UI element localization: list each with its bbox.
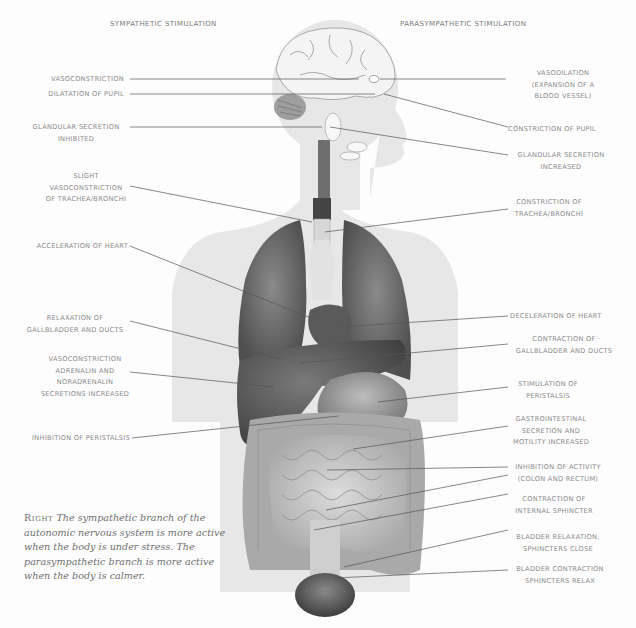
label-bladder-relaxation: Bladder relaxation, sphincters close [508,532,608,555]
label-acceleration-of-heart: Acceleration of heart [18,241,128,253]
label-vasodilation: Vasodilation (expansion of a blood vesse… [508,68,618,103]
diagram-page: Sympathetic Stimulation Parasympathetic … [0,0,636,628]
label-constriction-of-pupil: Constriction of pupil [508,124,628,136]
label-contraction-of-gallbladder: Contraction of gallbladder and ducts [508,334,620,357]
figure-caption: Right The sympathetic branch of the auto… [24,511,234,584]
label-glandular-secretion-inhibited: Glandular secretion inhibited [24,122,128,145]
label-stimulation-of-peristalsis: Stimulation of peristalsis [510,379,586,402]
label-bladder-contraction: Bladder contraction sphincters relax [508,564,612,587]
salivary-gland [325,113,341,141]
caption-lead: Right [24,512,53,523]
label-constriction-of-trachea: Constriction of trachea/bronchi [508,197,590,220]
label-contraction-of-internal-sphincter: Contraction of internal sphincter [508,494,600,517]
label-inhibition-of-activity: Inhibition of activity (colon and rectum… [508,462,608,485]
label-vasoconstriction-adrenalin: Vasoconstriction adrenalin and noradrena… [30,354,140,400]
caption-text: The sympathetic branch of the autonomic … [24,512,225,581]
sympathetic-header: Sympathetic Stimulation [110,20,217,28]
label-gastrointestinal-secretion: Gastrointestinal secretion and motility … [508,414,594,449]
label-relaxation-of-gallbladder: Relaxation of gallbladder and ducts [20,313,130,336]
label-vasoconstriction: Vasoconstriction [30,74,124,86]
label-slight-vasoconstriction: Slight vasoconstriction of trachea/bronc… [34,171,138,206]
cerebellum [274,94,306,120]
label-dilatation-of-pupil: Dilatation of pupil [20,89,124,101]
label-deceleration-of-heart: Deceleration of heart [510,311,630,323]
label-glandular-secretion-increased: Glandular secretion increased [508,150,614,173]
parasympathetic-header: Parasympathetic Stimulation [400,20,526,28]
bladder [295,573,355,617]
label-inhibition-of-peristalsis: Inhibition of peristalsis [14,433,130,445]
